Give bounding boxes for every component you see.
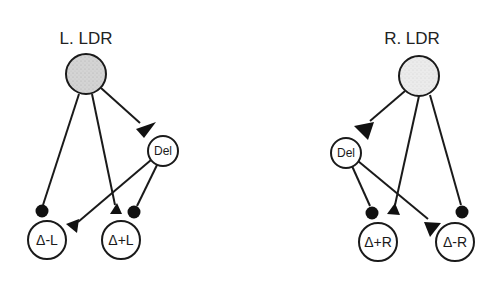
inhibitory-terminal-icon <box>456 206 469 219</box>
left-delta-minus-label: Δ-L <box>36 232 58 248</box>
left-ldr-node <box>66 54 106 94</box>
right-ldr-node <box>399 56 439 96</box>
inhibitory-terminal-icon <box>366 207 379 220</box>
left-network: L. LDR Del Δ-L Δ+L <box>28 29 178 259</box>
excitatory-terminal-icon <box>110 203 122 214</box>
excitatory-terminal-icon <box>136 122 156 138</box>
excitatory-terminal-icon <box>387 203 400 215</box>
edge-del-to-plus-l <box>137 165 157 206</box>
right-ldr-title: R. LDR <box>384 29 440 48</box>
ldr-circuit-diagram: L. LDR Del Δ-L Δ+L R. LDR <box>0 0 504 285</box>
inhibitory-terminal-icon <box>128 206 141 219</box>
edge-del-to-plus-r <box>352 166 370 206</box>
edge-rldr-to-minus-r <box>430 95 461 205</box>
right-network: R. LDR Del Δ+R Δ-R <box>331 29 474 261</box>
left-del-label: Del <box>154 144 172 158</box>
excitatory-terminal-icon <box>354 122 374 140</box>
right-del-label: Del <box>337 146 355 160</box>
edge-lldr-to-minus-l <box>43 94 79 205</box>
right-delta-minus-label: Δ-R <box>443 234 467 250</box>
right-delta-plus-label: Δ+R <box>364 234 392 250</box>
edge-lldr-to-del <box>101 88 140 123</box>
edge-rldr-to-del <box>370 91 405 121</box>
left-delta-plus-label: Δ+L <box>108 232 134 248</box>
left-ldr-title: L. LDR <box>60 29 113 48</box>
edge-lldr-to-plus-l <box>92 94 115 205</box>
inhibitory-terminal-icon <box>36 205 49 218</box>
excitatory-terminal-icon <box>66 219 79 233</box>
edge-rldr-to-plus-r <box>395 96 419 205</box>
